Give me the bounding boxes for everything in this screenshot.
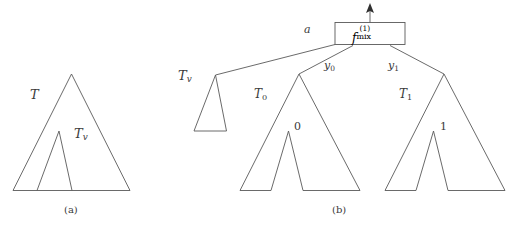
panel-a-caption: (a) [64,205,78,215]
panel-a-label-T: T [30,88,39,101]
panel-b-label-Tv: Tv [178,69,192,84]
panel-a-subtree-triangle-tv [37,131,72,191]
panel-b-subtree-triangle-tv [194,75,227,131]
panel-b-label-Tv-sub: v [187,74,192,84]
panel-b-label-T1: T1 [399,88,412,101]
edge-box-to-tv [216,45,336,76]
panel-b-leaf-label-1: 1 [440,121,447,132]
panel-a-label-Tv-sub: v [83,132,88,142]
panel-a-label-Tv-base: T [74,126,83,141]
panel-b-group [194,3,505,191]
panel-b-edge-label-a: a [304,24,311,35]
panel-b-edge-label-y1: y1 [388,60,399,73]
fmix-gate-label-subscript: mix [356,32,371,41]
figure-root: T Tv (a) Tv a y0 y1 T0 T1 0 1 f (1) mix … [0,0,513,226]
panel-b-label-T1-base: T [399,87,407,101]
fmix-gate-label-stack: (1) mix [356,30,376,42]
fmix-gate-label: f (1) mix [352,27,376,46]
panel-b-label-T0-sub: 0 [262,92,267,102]
panel-b-caption: (b) [332,205,346,215]
panel-b-label-T0: T0 [254,88,267,101]
panel-b-edge-label-y0-sub: 0 [330,64,335,73]
panel-b-edge-label-y0: y0 [324,60,335,73]
panel-b-edge-label-y1-sub: 1 [394,64,399,73]
panel-b-label-T0-base: T [254,87,262,101]
panel-a-label-Tv: Tv [74,127,88,142]
figure-canvas [0,0,513,226]
panel-b-label-Tv-base: T [178,68,187,83]
panel-b-leaf-label-0: 0 [294,121,301,132]
panel-b-label-T1-sub: 1 [407,92,412,102]
